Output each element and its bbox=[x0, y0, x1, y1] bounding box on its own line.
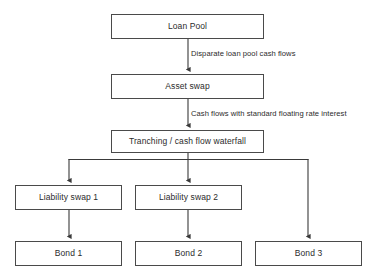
node-loan-pool[interactable]: Loan Pool bbox=[111, 14, 264, 39]
node-bond-2-label: Bond 2 bbox=[175, 249, 203, 258]
node-bond-3-label: Bond 3 bbox=[295, 249, 323, 258]
node-bond-1[interactable]: Bond 1 bbox=[15, 241, 122, 266]
node-tranching-waterfall[interactable]: Tranching / cash flow waterfall bbox=[111, 130, 264, 153]
node-liability-swap-1[interactable]: Liability swap 1 bbox=[15, 185, 122, 210]
node-tranching-waterfall-label: Tranching / cash flow waterfall bbox=[129, 137, 246, 146]
node-bond-3[interactable]: Bond 3 bbox=[255, 241, 362, 266]
node-bond-1-label: Bond 1 bbox=[55, 249, 83, 258]
node-liability-swap-2[interactable]: Liability swap 2 bbox=[135, 185, 242, 210]
node-bond-2[interactable]: Bond 2 bbox=[135, 241, 242, 266]
node-loan-pool-label: Loan Pool bbox=[168, 22, 207, 31]
flowchart-diagram: Loan Pool Asset swap Tranching / cash fl… bbox=[0, 0, 378, 274]
node-liability-swap-1-label: Liability swap 1 bbox=[39, 193, 98, 202]
edge-label-disparate-cash-flows: Disparate loan pool cash flows bbox=[191, 50, 296, 58]
edge-label-standard-floating-rate: Cash flows with standard floating rate i… bbox=[191, 110, 347, 118]
node-liability-swap-2-label: Liability swap 2 bbox=[159, 193, 218, 202]
node-asset-swap[interactable]: Asset swap bbox=[111, 74, 264, 99]
node-asset-swap-label: Asset swap bbox=[165, 82, 209, 91]
